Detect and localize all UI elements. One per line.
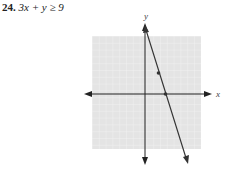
y-axis-down-arrow-icon — [142, 157, 148, 165]
point-2-3 — [157, 71, 161, 75]
point-3-0 — [164, 92, 168, 96]
x-axis-label: x — [215, 89, 220, 99]
coordinate-graph: x y — [0, 0, 231, 174]
line-down-arrow-icon — [183, 155, 189, 164]
grid-area — [92, 36, 201, 149]
x-axis-right-arrow-icon — [204, 91, 212, 97]
x-axis-left-arrow-icon — [84, 91, 92, 97]
y-axis-label: y — [143, 11, 148, 21]
